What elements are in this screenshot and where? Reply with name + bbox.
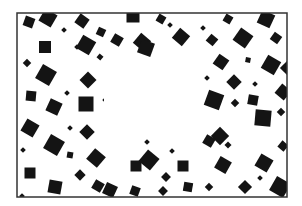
square-shape — [67, 152, 74, 159]
illusory-contour-figure — [0, 0, 302, 206]
square-shape — [254, 109, 271, 126]
square-shape — [39, 41, 51, 53]
square-shape — [178, 161, 189, 172]
square-shape — [245, 57, 251, 63]
square-shape — [131, 161, 142, 172]
square-shape — [79, 97, 94, 112]
square-shape — [183, 182, 193, 192]
square-shape — [247, 94, 259, 106]
square-shape — [47, 179, 62, 194]
square-shape — [117, 98, 130, 111]
square-shape — [25, 168, 36, 179]
square-shape — [26, 91, 37, 102]
